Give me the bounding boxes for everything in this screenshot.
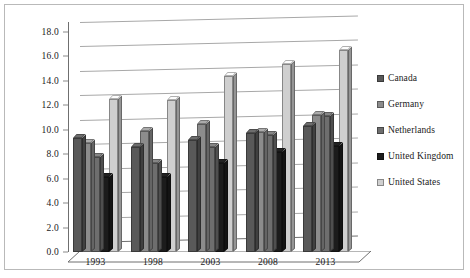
bar-side xyxy=(118,96,122,252)
bar-side xyxy=(100,153,104,252)
bar-side xyxy=(321,112,325,252)
bar xyxy=(246,133,255,252)
bar-side xyxy=(140,143,144,252)
legend-swatch-icon xyxy=(377,75,384,82)
bar-side xyxy=(206,120,210,252)
bar-group xyxy=(73,22,118,252)
legend-item-label: United States xyxy=(388,177,440,187)
y-axis-tick-label: 18.0 xyxy=(42,27,59,37)
y-axis-tick-label: 16.0 xyxy=(42,51,59,61)
bar-side xyxy=(330,113,334,252)
bar-side xyxy=(82,135,86,252)
legend-item-label: Germany xyxy=(388,99,424,109)
bar-side xyxy=(224,159,228,252)
y-axis-line xyxy=(68,22,69,252)
bar-side xyxy=(348,47,352,252)
bar-group xyxy=(246,22,291,252)
y-axis-tick-label: 6.0 xyxy=(47,174,59,184)
bar-group xyxy=(131,22,176,252)
legend-item-label: Canada xyxy=(388,73,417,83)
y-axis-tick-label: 14.0 xyxy=(42,76,59,86)
legend-item[interactable]: United States xyxy=(377,169,463,195)
bar-side xyxy=(215,143,219,252)
bar-side xyxy=(91,140,95,252)
y-axis-tick-label: 0.0 xyxy=(47,247,59,257)
bar-group xyxy=(188,22,233,252)
bar-face xyxy=(73,138,82,252)
bar-side xyxy=(197,136,201,252)
bar-side xyxy=(149,127,153,252)
bar-side xyxy=(109,174,113,252)
legend-item-label: Netherlands xyxy=(388,125,435,135)
bar-side xyxy=(273,131,277,252)
bar-face xyxy=(246,133,255,252)
bar-side xyxy=(282,148,286,252)
plot-area xyxy=(68,22,360,252)
legend-item-label: United Kingdom xyxy=(388,151,454,161)
chart-frame: 0.02.04.06.08.010.012.014.016.018.0 1993… xyxy=(4,4,464,270)
bar-face xyxy=(188,140,197,252)
chart-legend: CanadaGermanyNetherlandsUnited KingdomUn… xyxy=(377,65,463,195)
bar xyxy=(188,140,197,252)
legend-swatch-icon xyxy=(377,101,384,108)
y-axis-tick-label: 2.0 xyxy=(47,223,59,233)
bar-side xyxy=(312,123,316,252)
legend-item[interactable]: United Kingdom xyxy=(377,143,463,169)
y-axis-tick-label: 10.0 xyxy=(42,125,59,135)
bar-side xyxy=(167,174,171,252)
bar xyxy=(73,138,82,252)
bar-side xyxy=(158,159,162,252)
bar-group xyxy=(303,22,348,252)
legend-swatch-icon xyxy=(377,127,384,134)
bar xyxy=(131,147,140,252)
bar-side xyxy=(233,72,237,252)
bar-face xyxy=(303,126,312,252)
legend-item[interactable]: Canada xyxy=(377,65,463,91)
y-axis-tick-label: 8.0 xyxy=(47,149,59,159)
bar-side xyxy=(176,97,180,252)
bar-side xyxy=(264,129,268,252)
bar-side xyxy=(291,60,295,252)
legend-swatch-icon xyxy=(377,179,384,186)
y-axis-tick-label: 12.0 xyxy=(42,100,59,110)
y-axis-tick-label: 4.0 xyxy=(47,198,59,208)
bar-face xyxy=(131,147,140,252)
bar xyxy=(303,126,312,252)
caption-artifact xyxy=(5,261,463,269)
bar-side xyxy=(339,142,343,252)
bar-side xyxy=(255,130,259,252)
legend-item[interactable]: Netherlands xyxy=(377,117,463,143)
legend-item[interactable]: Germany xyxy=(377,91,463,117)
legend-swatch-icon xyxy=(377,153,384,160)
